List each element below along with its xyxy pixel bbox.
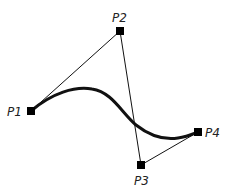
- point-p3-marker: [137, 161, 145, 169]
- bezier-diagram: P1 P2 P3 P4: [0, 0, 230, 196]
- point-p3-label: P3: [134, 174, 149, 188]
- point-p4-label: P4: [205, 126, 220, 140]
- point-p2-label: P2: [112, 11, 127, 25]
- point-p1-marker: [27, 107, 35, 115]
- point-p2-marker: [116, 27, 124, 35]
- control-polygon: [31, 31, 198, 165]
- bezier-curve: [31, 88, 198, 138]
- point-p4-marker: [194, 128, 202, 136]
- point-p1-label: P1: [7, 105, 22, 119]
